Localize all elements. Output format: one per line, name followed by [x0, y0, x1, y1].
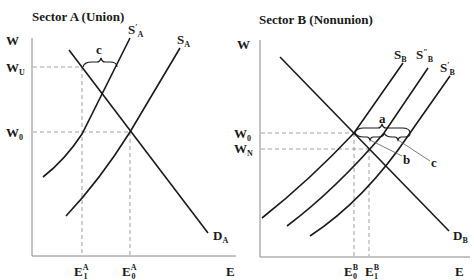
label-sb: SB [394, 47, 407, 64]
wage-label-w0: W0 [6, 125, 23, 142]
employment-label-e1b: EB1 [365, 263, 380, 280]
brace-label-b: b [403, 152, 410, 167]
supply-curve-sb [262, 63, 403, 218]
brace-label-c: c [431, 155, 437, 170]
wage-label-wu: WU [6, 60, 25, 77]
wage-label-wn: WN [234, 141, 253, 158]
panel-title-sector-b: Sector B (Nonunion) [259, 12, 373, 27]
employment-label-e1a: EA1 [74, 263, 89, 280]
employment-label-e0a: EA0 [122, 263, 137, 280]
employment-label-e0b: EB0 [344, 263, 359, 280]
panel-sector-b: Sector B (Nonunion) W E W0 WN a b c SB S… [234, 12, 470, 280]
supply-curve-sb-double-prime [287, 68, 428, 226]
label-sb-double-prime: S″B [416, 47, 434, 64]
label-da: DA [213, 228, 228, 245]
demand-curve-db [280, 57, 449, 231]
brace-c [83, 58, 117, 67]
x-axis-label: E [226, 264, 235, 279]
supply-curve-sa-prime [43, 38, 130, 177]
label-sb-prime: S′B [440, 60, 455, 77]
brace-label-c: c [96, 42, 102, 57]
panel-title-sector-a: Sector A (Union) [32, 9, 124, 24]
label-sa-prime: S′A [128, 22, 143, 39]
y-axis-label: W [6, 33, 19, 48]
x-axis-label: E [455, 264, 464, 279]
brace-label-a: a [379, 111, 386, 126]
diagram-canvas: Sector A (Union) W E WU W0 c S′A SA DA E… [0, 0, 474, 280]
panel-sector-a: Sector A (Union) W E WU W0 c S′A SA DA E… [6, 9, 236, 280]
label-sa: SA [177, 32, 190, 49]
label-db: DB [453, 228, 468, 245]
y-axis-label: W [237, 37, 250, 52]
demand-curve-da [69, 50, 208, 233]
